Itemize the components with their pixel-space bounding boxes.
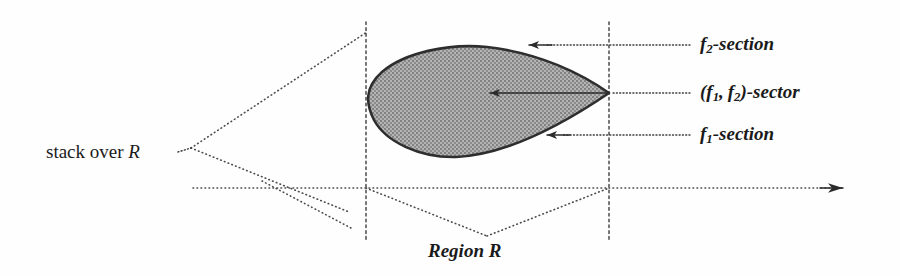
label-f1f2-sector-open: (f — [700, 81, 713, 102]
figure-canvas: stack over R Region R f2-section (f1, f2… — [0, 0, 900, 276]
sector-blob — [368, 46, 609, 157]
label-f2-section-suffix: -section — [713, 33, 774, 54]
stack-cone — [191, 32, 367, 212]
label-stack-over-r-var: R — [128, 141, 140, 162]
label-region-r: Region R — [428, 241, 501, 260]
label-f2-section: f2-section — [700, 34, 774, 56]
label-f1-section-suffix: -section — [713, 123, 774, 144]
region-r-outline — [366, 188, 609, 236]
sector-blob-shape — [368, 46, 609, 157]
stack-label-leader — [178, 148, 191, 152]
cone-lower-ray — [191, 148, 349, 212]
cone-upper-ray — [191, 32, 367, 148]
label-stack-over-r: stack over R — [46, 142, 140, 161]
region-r-right-edge — [487, 188, 609, 236]
label-stack-over-r-text: stack over — [46, 141, 124, 162]
stack-label-leader-line — [178, 148, 191, 152]
label-f1f2-sector-comma: , f — [719, 81, 734, 102]
label-f1f2-sector: (f1, f2)-sector — [700, 82, 800, 104]
label-f1-section: f1-section — [700, 124, 774, 146]
region-r-left-edge — [366, 188, 487, 236]
label-f1f2-sector-suffix: )-sector — [740, 81, 799, 102]
